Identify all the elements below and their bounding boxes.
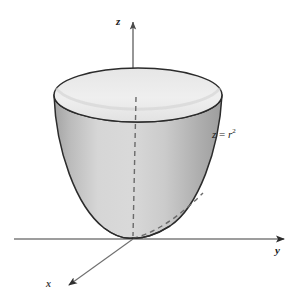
z-axis-label: z bbox=[116, 16, 120, 27]
equation-operator: = bbox=[216, 128, 228, 140]
x-axis-label: x bbox=[46, 279, 51, 289]
x-axis-line bbox=[69, 239, 133, 285]
paraboloid-figure: z y x z = r2 bbox=[0, 0, 298, 308]
surface-equation-label: z = r2 bbox=[212, 128, 236, 140]
y-axis-label: y bbox=[275, 245, 280, 256]
x-axis bbox=[69, 239, 133, 285]
equation-exponent: 2 bbox=[232, 127, 236, 135]
paraboloid-solid bbox=[54, 68, 222, 238]
figure-canvas bbox=[0, 0, 298, 308]
